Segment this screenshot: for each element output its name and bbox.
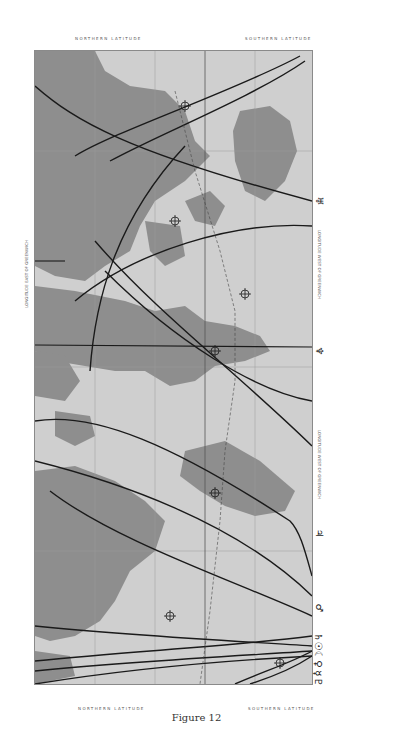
uranus-glyph: ♅: [314, 197, 324, 206]
land-masses: [35, 51, 297, 684]
jupiter-glyph: ♃: [314, 529, 324, 538]
moon-glyph: ☾: [313, 651, 323, 660]
left-edge-longitude-label: LONGITUDE EAST OF GREENWICH: [24, 240, 29, 308]
figure-caption: Figure 12: [0, 712, 393, 723]
bottom-north-latitude-label: NORTHERN LATITUDE: [78, 706, 145, 711]
top-north-latitude-label: NORTHERN LATITUDE: [75, 36, 142, 41]
bottom-south-latitude-label: SOUTHERN LATITUDE: [248, 706, 315, 711]
venus-glyph: ♀: [313, 660, 323, 667]
top-south-latitude-label: SOUTHERN LATITUDE: [245, 36, 312, 41]
sun-glyph: ☉: [313, 642, 323, 651]
neptune-glyph: ♆: [314, 347, 324, 356]
pluto-glyph: ♇: [313, 678, 323, 687]
right-edge-longitude-label: LONGITUDE WEST OF GREENWICH: [317, 230, 322, 299]
right-edge-longitude-label-2: LONGITUDE WEST OF GREENWICH: [317, 430, 322, 499]
mercury-glyph: ☿: [312, 670, 322, 676]
saturn-glyph: ♄: [313, 633, 323, 642]
world-map: [34, 50, 313, 685]
mars-glyph: ♂: [314, 604, 324, 613]
map-graphic: [35, 51, 312, 684]
